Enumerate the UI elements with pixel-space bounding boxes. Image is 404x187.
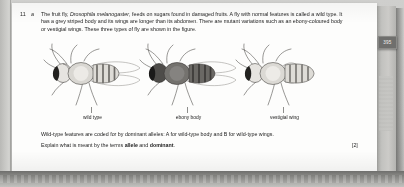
page-number-label: 395 bbox=[383, 40, 391, 45]
page-content: 11 a The fruit fly, Drosophila melanogas… bbox=[12, 3, 377, 171]
fly-illustration-wild-type bbox=[41, 39, 144, 109]
vestigial-wing-fly-drawing bbox=[233, 39, 336, 109]
ebony-body-fly-drawing bbox=[137, 39, 240, 109]
left-page-gutter bbox=[0, 0, 11, 174]
page-number-badge: 395 bbox=[378, 36, 397, 49]
label-leader-vestigial-wing bbox=[283, 107, 284, 113]
fly-label-vestigial-wing: vestigial wing bbox=[233, 115, 336, 120]
gutter-texture bbox=[379, 76, 393, 131]
label-leader-wild-type bbox=[91, 107, 92, 113]
explain-text-mid: and bbox=[138, 142, 150, 148]
marks-allocation: [2] bbox=[352, 142, 358, 148]
question-stem: The fruit fly, Drosophila melanogaster, … bbox=[41, 11, 345, 35]
wild-type-fly-drawing bbox=[41, 39, 144, 109]
stem-text-b: , feeds on sugars found in damaged fruit… bbox=[129, 11, 289, 17]
term-dominant: dominant bbox=[150, 142, 174, 148]
question-part-label: a bbox=[31, 11, 34, 17]
fly-figure: wild type ebony body vestigial wing bbox=[41, 39, 351, 127]
fly-illustration-vestigial-wing bbox=[233, 39, 336, 109]
label-leader-ebony-body bbox=[187, 107, 188, 113]
species-name: Drosophila melanogaster bbox=[70, 11, 129, 17]
fly-illustration-ebony-body bbox=[137, 39, 240, 109]
scanned-page-view: 395 11 a The fruit fly, Drosophila melan… bbox=[0, 0, 404, 187]
right-page-gutter bbox=[377, 6, 396, 174]
explain-text-pre: Explain what is meant by the terms bbox=[41, 142, 125, 148]
explain-text-post: . bbox=[174, 142, 175, 148]
desk-surface-band bbox=[0, 171, 404, 187]
allele-statement: Wild-type features are coded for by domi… bbox=[41, 131, 361, 139]
question-number: 11 bbox=[20, 11, 26, 17]
stem-text-a: The fruit fly, bbox=[41, 11, 70, 17]
term-allele: allele bbox=[125, 142, 138, 148]
fly-label-ebony-body: ebony body bbox=[137, 115, 240, 120]
page-edge-shadow bbox=[396, 8, 404, 178]
desk-texture bbox=[0, 175, 404, 183]
fly-label-wild-type: wild type bbox=[41, 115, 144, 120]
explain-instruction: Explain what is meant by the terms allel… bbox=[41, 142, 361, 150]
